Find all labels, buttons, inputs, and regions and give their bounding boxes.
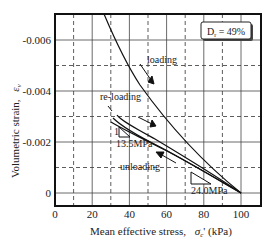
- relative-density-box: Dr = 49%: [201, 22, 253, 41]
- annotation-loading: loading: [147, 54, 177, 65]
- unloading-curve: [111, 122, 241, 193]
- grid: [55, 14, 261, 206]
- svg-text:13.5MPa: 13.5MPa: [116, 138, 153, 149]
- y-tick-neg0.002: -0.002: [23, 136, 51, 148]
- x-tick-20: 20: [87, 208, 99, 220]
- x-tick-0: 0: [52, 208, 58, 220]
- x-tick-100: 100: [233, 208, 250, 220]
- annotation-unloading: unloading: [120, 161, 160, 172]
- x-tick-80: 80: [198, 208, 210, 220]
- svg-text:1: 1: [114, 126, 119, 137]
- y-axis-label: Volumetric strain, εv: [9, 83, 23, 178]
- y-tick-0: 0: [46, 187, 52, 199]
- y-tick-neg0.004: -0.004: [23, 85, 52, 97]
- annotation-reloading: re-loading: [100, 91, 141, 102]
- volumetric-strain-chart: 0 -0.002 -0.004 -0.006 0 20 40 60 80 100…: [0, 0, 274, 241]
- svg-text:Dr = 49%: Dr = 49%: [207, 26, 245, 38]
- reloading-curve: [113, 118, 241, 193]
- plot-frame: [55, 14, 261, 206]
- slope-triangle-13.5: 1 13.5MPa: [114, 126, 153, 149]
- x-tick-40: 40: [124, 208, 136, 220]
- x-tick-60: 60: [161, 208, 173, 220]
- svg-text:24.0MPa: 24.0MPa: [191, 185, 228, 196]
- x-axis-label: Mean effective stress, σc' (kPa): [90, 225, 232, 239]
- y-tick-neg0.006: -0.006: [23, 34, 52, 46]
